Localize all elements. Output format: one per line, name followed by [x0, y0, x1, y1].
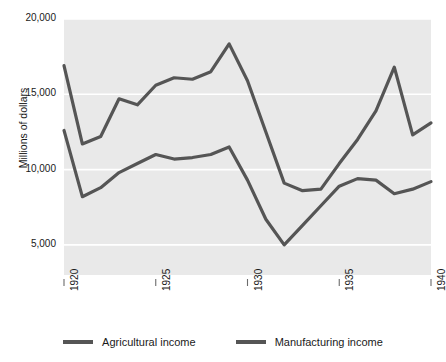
legend-item[interactable]: Manufacturing income — [236, 336, 383, 348]
gridlines — [64, 19, 431, 245]
line-chart: Millions of dollars 5,00010,00015,00020,… — [0, 0, 446, 362]
chart-legend: Agricultural incomeManufacturing income — [0, 336, 446, 348]
legend-label: Manufacturing income — [275, 336, 383, 348]
legend-swatch-icon — [236, 340, 266, 344]
series-line — [64, 44, 431, 191]
chart-lines — [0, 0, 446, 362]
legend-item[interactable]: Agricultural income — [63, 336, 196, 348]
x-axis-tick-marks — [64, 279, 431, 286]
data-series-group — [64, 44, 431, 245]
legend-label: Agricultural income — [102, 336, 196, 348]
legend-swatch-icon — [63, 340, 93, 344]
series-line — [64, 130, 431, 244]
